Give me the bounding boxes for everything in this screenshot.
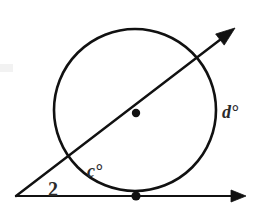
geometry-figure: 2 c° d° xyxy=(0,0,257,210)
scan-artifact xyxy=(0,64,13,72)
tangent-point-dot xyxy=(131,191,140,200)
diagram-canvas: 2 c° d° xyxy=(0,0,257,210)
label-angle-2: 2 xyxy=(48,178,58,200)
label-arc-c: c° xyxy=(87,161,103,181)
circle-center-dot xyxy=(132,109,140,117)
label-arc-d: d° xyxy=(222,102,239,122)
